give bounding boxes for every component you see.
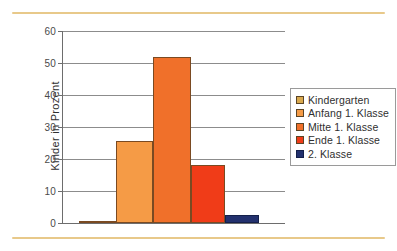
legend-item-label: 2. Klasse (308, 149, 352, 160)
legend-swatch-icon (296, 136, 304, 144)
figure-root: Kinder in Prozent 0102030405060 Kinderga… (0, 0, 397, 251)
legend-item-label: Kindergarten (308, 95, 369, 106)
plot-area: 0102030405060 (62, 31, 285, 224)
bar-3[interactable] (153, 57, 191, 223)
legend-item-3[interactable]: Mitte 1. Klasse (296, 120, 389, 134)
y-tick-40 (58, 95, 63, 96)
legend-swatch-icon (296, 96, 304, 104)
legend-swatch-icon (296, 123, 304, 131)
y-tick-20 (58, 159, 63, 160)
y-tick-label-40: 40 (44, 90, 56, 101)
bottom-divider-rule (12, 237, 385, 239)
y-tick-label-60: 60 (44, 26, 56, 37)
legend-swatch-icon (296, 109, 304, 117)
bar-2[interactable] (116, 141, 153, 223)
y-tick-10 (58, 191, 63, 192)
gridline-60 (63, 31, 285, 32)
y-tick-label-20: 20 (44, 154, 56, 165)
bar-5[interactable] (225, 215, 259, 223)
legend-item-label: Ende 1. Klasse (308, 135, 380, 146)
legend-item-5[interactable]: 2. Klasse (296, 147, 389, 161)
legend-item-label: Anfang 1. Klasse (308, 108, 389, 119)
legend-item-2[interactable]: Anfang 1. Klasse (296, 107, 389, 121)
y-tick-0 (58, 223, 63, 224)
y-tick-label-50: 50 (44, 58, 56, 69)
y-tick-60 (58, 31, 63, 32)
legend-swatch-icon (296, 150, 304, 158)
y-tick-50 (58, 63, 63, 64)
y-tick-label-10: 10 (44, 186, 56, 197)
legend-item-4[interactable]: Ende 1. Klasse (296, 134, 389, 148)
y-tick-30 (58, 127, 63, 128)
legend-item-1[interactable]: Kindergarten (296, 93, 389, 107)
top-divider-rule (12, 12, 385, 14)
legend-item-label: Mitte 1. Klasse (308, 122, 378, 133)
y-tick-label-0: 0 (50, 218, 56, 229)
y-tick-label-30: 30 (44, 122, 56, 133)
bar-4[interactable] (191, 165, 225, 223)
legend: KindergartenAnfang 1. KlasseMitte 1. Kla… (290, 88, 396, 166)
bar-1[interactable] (79, 221, 116, 223)
